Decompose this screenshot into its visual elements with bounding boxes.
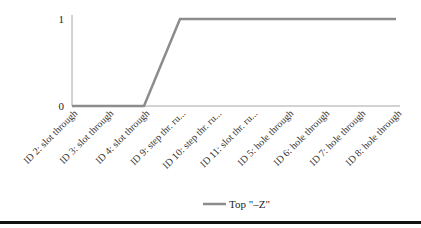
x-tick-labels: ID 2: slot throughID 3: slot throughID 4… [21, 108, 403, 171]
axes [72, 15, 400, 106]
y-tick-label: 0 [59, 100, 65, 112]
legend-label-top-z: Top "–Z" [229, 198, 270, 210]
y-tick-labels: 01 [59, 13, 65, 112]
bottom-rule [0, 221, 421, 224]
y-tick-label: 1 [59, 13, 65, 25]
series-layer [72, 19, 396, 106]
line-chart: 01 ID 2: slot throughID 3: slot throughI… [0, 0, 421, 228]
series-line-top-z [72, 19, 396, 106]
legend: Top "–Z" [203, 198, 270, 210]
